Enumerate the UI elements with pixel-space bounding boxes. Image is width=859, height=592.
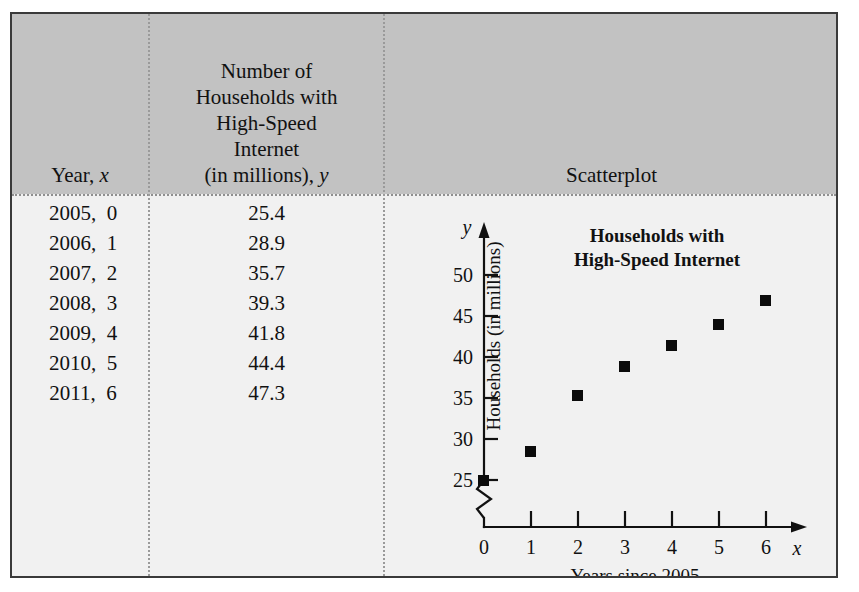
table-row: 41.8 [150,318,383,348]
data-table-frame: Year, x Number of Households with High-S… [10,12,838,578]
table-row: 35.7 [150,258,383,288]
y-tick-label: 45 [453,305,473,327]
column-header-households-line-2: Households with [196,84,338,110]
y-tick-label: 25 [453,469,473,491]
x-tick-label: 2 [573,536,583,558]
data-point [666,340,677,351]
column-header-year-variable: x [100,163,109,188]
header-separator-rule [12,194,836,196]
chart-title-line-2: High-Speed Internet [574,249,741,270]
column-header-scatterplot: Scatterplot [385,14,838,194]
column-header-households-line-1: Number of [221,58,313,84]
data-point [619,361,630,372]
column-header-year-text: Year, [51,163,94,188]
chart-title-line-1: Households with [590,225,725,246]
table-row: 2011, 6 [12,378,148,408]
table-row: 47.3 [150,378,383,408]
table-row: 2008, 3 [12,288,148,318]
table-row: 44.4 [150,348,383,378]
x-axis-tick-labels: 0 1 2 3 4 5 6 [479,536,771,558]
data-point [760,295,771,306]
table-row: 28.9 [150,228,383,258]
x-tick-label: 0 [479,536,489,558]
data-point [478,475,489,486]
x-tick-label: 1 [526,536,536,558]
table-row: 2006, 1 [12,228,148,258]
households-column-body: 25.4 28.9 35.7 39.3 41.8 44.4 47.3 [150,198,383,408]
data-point [525,446,536,457]
x-tick-label: 5 [714,536,724,558]
column-header-households: Number of Households with High-Speed Int… [150,14,383,194]
scatterplot-svg: 25 30 35 40 45 50 0 1 2 3 [385,198,838,578]
x-tick-label: 3 [620,536,630,558]
table-row: 2009, 4 [12,318,148,348]
x-axis [484,522,807,533]
table-row: 39.3 [150,288,383,318]
x-axis-ticks [531,511,766,527]
y-axis-variable-label: y [461,216,472,239]
data-point [572,390,583,401]
scatter-series [478,295,771,486]
year-column-body: 2005, 0 2006, 1 2007, 2 2008, 3 2009, 4 … [12,198,148,408]
column-header-households-line-4: Internet [234,136,299,162]
column-header-households-variable: y [319,163,328,187]
y-tick-label: 40 [453,346,473,368]
x-axis-arrow-icon [791,522,807,533]
table-row: 2005, 0 [12,198,148,228]
y-tick-label: 30 [453,428,473,450]
column-header-households-line-3: High-Speed [216,110,316,136]
x-axis-variable-label: x [792,537,802,559]
table-row: 25.4 [150,198,383,228]
table-row: 2010, 5 [12,348,148,378]
column-header-households-units: (in millions), [204,163,314,187]
y-axis-caption: Households (in millions) [483,216,505,456]
y-axis-tick-labels: 25 30 35 40 45 50 [453,264,473,491]
x-tick-label: 6 [761,536,771,558]
column-header-households-line-5: (in millions), y [204,162,328,188]
column-header-scatterplot-text: Scatterplot [566,163,657,188]
x-tick-label: 4 [667,536,677,558]
y-tick-label: 35 [453,387,473,409]
x-axis-caption: Years since 2005 [571,565,700,578]
y-tick-label: 50 [453,264,473,286]
data-point [713,319,724,330]
scatterplot-pane: 25 30 35 40 45 50 0 1 2 3 [385,198,838,578]
column-header-year: Year, x [12,14,148,194]
table-row: 2007, 2 [12,258,148,288]
